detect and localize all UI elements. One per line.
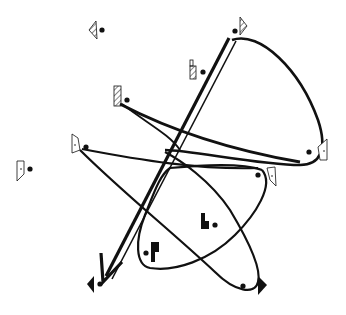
marker-m3-hatched-bar-icon xyxy=(190,60,206,79)
marker-m11-solid-triangle-icon xyxy=(87,276,103,293)
marker-m4-hatched-bar-icon xyxy=(114,86,130,106)
double-arrow xyxy=(101,38,236,282)
upper-loop-curve xyxy=(165,38,322,165)
marker-m12-solid-triangle-icon xyxy=(240,276,267,295)
diagram-svg xyxy=(0,0,346,315)
curve-m4-m6 xyxy=(120,104,300,162)
marker-m6-outline-pentagon-icon xyxy=(306,139,327,160)
marker-m9-solid-bar-icon xyxy=(201,213,218,229)
marker-m1-hatched-triangle-icon xyxy=(89,21,105,39)
marker-m2-hatched-triangle-icon xyxy=(232,17,247,35)
marker-m10-solid-bar-icon xyxy=(143,242,159,262)
marker-m8-outline-pentagon-icon xyxy=(17,161,33,181)
diagram-canvas xyxy=(0,0,346,315)
